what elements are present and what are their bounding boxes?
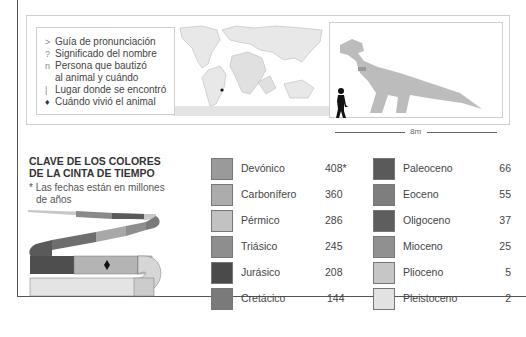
legend-text: Persona que bautizó	[55, 60, 147, 71]
period-value: 144	[327, 292, 357, 304]
human-silhouette-icon	[334, 87, 350, 119]
period-value: 245	[325, 240, 355, 252]
pronunciation-icon: >	[45, 37, 55, 48]
period-row-devonico: Devónico 408*	[211, 158, 361, 180]
period-row-permico: Pérmico 286	[211, 210, 361, 232]
period-name: Plioceno	[403, 266, 443, 278]
color-swatch	[373, 262, 395, 284]
legend-item-meaning: ?Significado del nombre	[45, 48, 157, 60]
location-bar-icon: |	[45, 85, 55, 96]
period-name: Paleoceno	[403, 162, 453, 174]
scale-line-right	[427, 132, 497, 133]
color-swatch	[373, 288, 395, 310]
color-swatch	[211, 288, 233, 310]
legend-item-named-by: nPersona que bautizó	[45, 60, 147, 72]
period-row-triasico: Triásico 245	[211, 236, 361, 258]
period-value: 25	[481, 240, 511, 252]
scale-bar: 8m	[335, 127, 497, 137]
period-name: Eoceno	[403, 188, 439, 200]
legend-item-named-by-cont: al animal y cuándo	[45, 72, 138, 83]
period-row-oligoceno: Oligoceno 37	[373, 210, 523, 232]
period-value: 66	[481, 162, 511, 174]
legend-text: Significado del nombre	[55, 48, 157, 59]
period-value: 208	[325, 266, 355, 278]
period-value: 2	[481, 292, 511, 304]
note-line: de años	[29, 194, 165, 206]
color-swatch	[373, 236, 395, 258]
color-swatch	[211, 210, 233, 232]
period-row-jurasico: Jurásico 208	[211, 262, 361, 284]
namer-icon: n	[45, 61, 55, 72]
period-value: 5	[481, 266, 511, 278]
question-icon: ?	[45, 49, 55, 60]
symbol-legend: >Guía de pronunciación ?Significado del …	[36, 27, 175, 115]
color-key-title: CLAVE DE LOS COLORES DE LA CINTA DE TIEM…	[29, 155, 161, 179]
title-line: CLAVE DE LOS COLORES	[29, 155, 161, 167]
period-name: Triásico	[241, 240, 277, 252]
legend-text: Lugar donde se encontró	[55, 84, 166, 95]
period-name: Carbonífero	[241, 188, 296, 200]
period-name: Pérmico	[241, 214, 280, 226]
title-line: DE LA CINTA DE TIEMPO	[29, 167, 161, 179]
legend-item-location: |Lugar donde se encontró	[45, 84, 166, 96]
legend-text: al animal y cuándo	[55, 72, 138, 83]
legend-item-pronunciation: >Guía de pronunciación	[45, 36, 156, 48]
world-map-icon	[172, 22, 330, 116]
left-border-rule	[17, 0, 18, 297]
period-value: 37	[481, 214, 511, 226]
scale-line-left	[335, 132, 405, 133]
dates-note: * Las fechas están en millones de años	[29, 182, 165, 206]
legend-text: Cuándo vivió el animal	[55, 96, 156, 107]
period-name: Cretácico	[241, 292, 285, 304]
dinosaur-silhouette-icon	[330, 23, 502, 117]
period-row-paleoceno: Paleoceno 66	[373, 158, 523, 180]
note-line: * Las fechas están en millones	[29, 182, 165, 194]
period-value: 55	[481, 188, 511, 200]
period-value: 408*	[325, 162, 355, 174]
color-swatch	[211, 158, 233, 180]
diamond-icon: ♦	[45, 97, 55, 108]
color-swatch	[373, 210, 395, 232]
legend-text: Guía de pronunciación	[55, 36, 156, 47]
size-comparison-panel: 8m	[329, 22, 503, 118]
color-swatch	[211, 236, 233, 258]
color-swatch	[211, 184, 233, 206]
period-row-plioceno: Plioceno 5	[373, 262, 523, 284]
period-row-carbonifero: Carbonífero 360	[211, 184, 361, 206]
world-map	[172, 22, 330, 116]
color-swatch	[211, 262, 233, 284]
period-row-pleistoceno: Pleistoceno 2	[373, 288, 523, 310]
period-row-mioceno: Mioceno 25	[373, 236, 523, 258]
period-row-eoceno: Eoceno 55	[373, 184, 523, 206]
period-name: Oligoceno	[403, 214, 450, 226]
color-swatch	[373, 158, 395, 180]
period-row-cretacico: Cretácico 144	[211, 288, 361, 310]
period-name: Devónico	[241, 162, 285, 174]
period-value: 360	[325, 188, 355, 200]
period-name: Jurásico	[241, 266, 280, 278]
legend-item-when-lived: ♦Cuándo vivió el animal	[45, 96, 156, 108]
period-name: Pleistoceno	[403, 292, 457, 304]
period-name: Mioceno	[403, 240, 443, 252]
period-value: 286	[325, 214, 355, 226]
scale-label: 8m	[410, 127, 421, 136]
color-swatch	[373, 184, 395, 206]
time-ribbon-illustration	[26, 208, 166, 304]
